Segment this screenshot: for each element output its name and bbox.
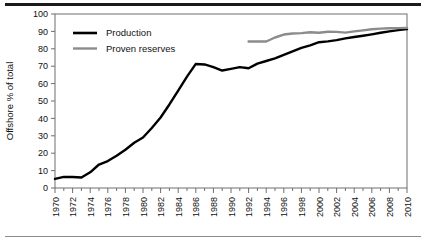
y-tick-label: 20 — [38, 148, 48, 158]
y-tick-label: 60 — [38, 79, 48, 89]
y-axis-tick-labels: 0102030405060708090100 — [33, 9, 48, 193]
x-tick-label: 1972 — [68, 197, 78, 217]
y-axis-ticks — [51, 14, 55, 188]
x-tick-label: 1996 — [279, 197, 289, 217]
x-tick-label: 2006 — [367, 197, 377, 217]
line-chart: 0102030405060708090100 19701972197419761… — [0, 8, 426, 236]
x-tick-label: 2008 — [385, 197, 395, 217]
x-tick-label: 1978 — [121, 197, 131, 217]
y-tick-label: 90 — [38, 27, 48, 37]
legend-label: Proven reserves — [106, 43, 175, 54]
x-tick-label: 1976 — [103, 197, 113, 217]
x-tick-label: 1990 — [227, 197, 237, 217]
y-axis-title: Offshore % of total — [4, 62, 15, 141]
y-tick-label: 0 — [43, 183, 48, 193]
x-tick-label: 1980 — [139, 197, 149, 217]
x-tick-label: 1970 — [51, 197, 61, 217]
y-tick-label: 40 — [38, 114, 48, 124]
y-tick-label: 70 — [38, 61, 48, 71]
x-tick-label: 2010 — [403, 197, 413, 217]
x-tick-label: 2004 — [350, 197, 360, 217]
top-rule — [5, 3, 421, 6]
x-tick-label: 1992 — [244, 197, 254, 217]
x-tick-label: 2002 — [332, 197, 342, 217]
y-tick-label: 10 — [38, 166, 48, 176]
y-tick-label: 100 — [33, 9, 48, 19]
bottom-rule — [5, 236, 421, 237]
x-tick-label: 1984 — [174, 197, 184, 217]
x-axis-tick-labels: 1970197219741976197819801982198419861988… — [51, 197, 413, 217]
x-tick-label: 2000 — [315, 197, 325, 217]
x-tick-label: 1974 — [86, 197, 96, 217]
x-tick-label: 1988 — [209, 197, 219, 217]
figure: 0102030405060708090100 19701972197419761… — [0, 0, 426, 245]
x-tick-label: 1998 — [297, 197, 307, 217]
x-tick-label: 1986 — [191, 197, 201, 217]
y-tick-label: 50 — [38, 96, 48, 106]
legend-label: Production — [106, 27, 151, 38]
x-tick-label: 1994 — [262, 197, 272, 217]
y-tick-label: 30 — [38, 131, 48, 141]
x-axis-ticks — [55, 188, 407, 193]
y-tick-label: 80 — [38, 44, 48, 54]
x-tick-label: 1982 — [156, 197, 166, 217]
